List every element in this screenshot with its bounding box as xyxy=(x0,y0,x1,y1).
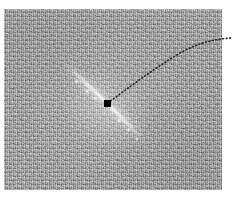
figure-container xyxy=(0,0,233,197)
jet-knot xyxy=(93,96,98,101)
source-position-marker[interactable] xyxy=(104,100,111,107)
jet-knot xyxy=(84,89,90,94)
jet-knot xyxy=(74,79,79,84)
grayscale-image-panel[interactable] xyxy=(4,9,222,190)
jet-knot xyxy=(126,128,131,132)
jet-knot xyxy=(135,137,139,141)
jet-knot xyxy=(116,118,122,123)
background-level-gradient xyxy=(4,9,222,190)
